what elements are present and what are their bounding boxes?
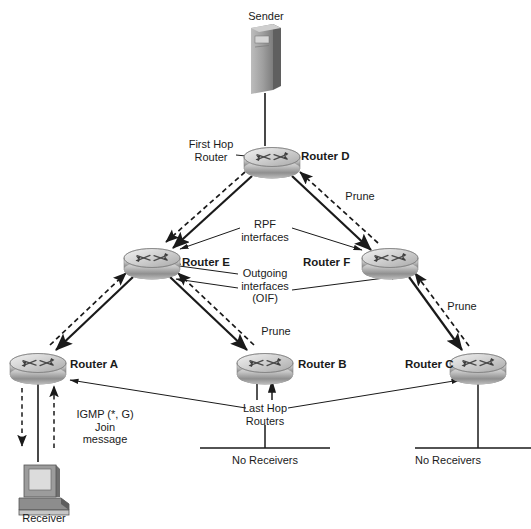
label-prune-d-f: Prune — [337, 190, 383, 203]
label-router-b: Router B — [298, 358, 364, 371]
device-router-e[interactable] — [124, 249, 180, 280]
link-router-a-to-router-e-join — [50, 273, 126, 345]
label-router-c: Router C — [405, 358, 471, 371]
label-outgoing-interfaces: Outgoing interfaces (OIF) — [234, 267, 296, 305]
label-prune-e-b: Prune — [253, 325, 299, 338]
label-first-hop-router: First Hop Router — [177, 138, 245, 163]
link-router-e-to-router-a-traffic — [56, 277, 133, 350]
label-rpf-interfaces: RPF interfaces — [234, 218, 296, 243]
label-router-a: Router A — [70, 358, 136, 371]
link-router-d-to-router-f-traffic — [292, 176, 371, 250]
link-router-f-to-router-d-prune — [300, 172, 378, 243]
label-igmp-join-message: IGMP (*, G) Join message — [62, 408, 148, 446]
label-no-receivers-b: No Receivers — [219, 454, 311, 467]
label-no-receivers-c: No Receivers — [402, 454, 494, 467]
link-router-a-to-receiver — [22, 378, 54, 462]
link-router-c-to-no-receivers — [415, 378, 531, 448]
label-last-hop-routers: Last Hop Routers — [235, 402, 295, 427]
device-sender[interactable] — [251, 24, 281, 94]
multicast-topology-diagram: Sender Router D Router E Router F Router… — [0, 0, 531, 529]
device-router-a[interactable] — [10, 354, 66, 385]
device-router-b[interactable] — [237, 354, 293, 385]
link-router-f-to-router-c-traffic — [409, 277, 462, 350]
device-router-d[interactable] — [244, 148, 300, 179]
label-prune-f-c: Prune — [439, 300, 485, 313]
label-router-f: Router F — [303, 256, 369, 269]
diagram-canvas — [0, 0, 531, 529]
label-router-d: Router D — [301, 150, 367, 163]
device-receiver[interactable] — [19, 465, 69, 515]
label-receiver: Receiver — [14, 512, 74, 525]
label-sender: Sender — [240, 10, 292, 23]
device-router-f[interactable] — [362, 249, 418, 280]
